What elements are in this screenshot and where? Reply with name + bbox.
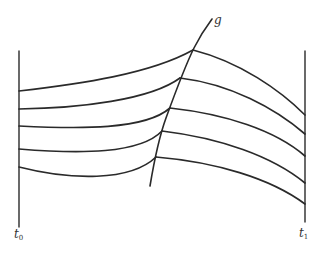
path-diagram: t0 t1 g [0, 0, 324, 253]
path-3-right-segment [170, 108, 305, 156]
path-2-left-segment [19, 78, 180, 109]
label-g: g [214, 13, 222, 27]
path-2-right-segment [180, 78, 305, 134]
path-3-left-segment [19, 108, 170, 128]
path-4-right-segment [162, 131, 305, 183]
path-5-right-segment [156, 157, 305, 204]
label-t0: t0 [14, 227, 23, 242]
label-t1: t1 [299, 226, 308, 241]
path-4-left-segment [19, 131, 162, 152]
path-1-right-segment [193, 50, 305, 115]
path-5-left-segment [19, 157, 156, 176]
curve-g [150, 19, 212, 186]
